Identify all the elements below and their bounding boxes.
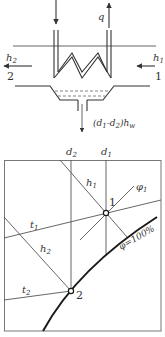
state-point-1-label: 1 (109, 196, 116, 209)
t1-line-label: t1 (30, 219, 39, 232)
h2-line-label: h2 (40, 243, 51, 256)
condensate-tray (15, 86, 150, 111)
state-2-label: 2 (7, 70, 14, 83)
state-1-label: 1 (155, 70, 162, 83)
psychrometric-chart: d2 d1 h1 h2 t1 t2 φ1 φ=100% 1 2 (4, 146, 161, 331)
d2-axis-label: d2 (66, 146, 77, 159)
t2-line-label: t2 (22, 284, 31, 297)
phi1-line-label: φ1 (136, 181, 147, 194)
h1-line (60, 160, 127, 237)
state-point-1 (103, 210, 108, 215)
state-point-2-label: 2 (76, 289, 83, 302)
state-point-2 (68, 288, 73, 293)
h1-line-label: h1 (86, 177, 97, 190)
h1-label: h1 (153, 52, 164, 65)
cooler-schematic: q h2 2 h1 1 (4, 0, 164, 132)
saturation-curve-label: φ=100% (117, 223, 156, 251)
cooling-dehumidification-diagram: q h2 2 h1 1 (0, 0, 165, 337)
t2-line (4, 291, 71, 300)
condensate-formula-label: (d1-d2)hw (93, 118, 135, 130)
h2-label: h2 (6, 52, 17, 65)
cooling-coil (54, 30, 111, 78)
d1-axis-label: d1 (101, 146, 112, 159)
heat-q-label: q (98, 11, 104, 22)
